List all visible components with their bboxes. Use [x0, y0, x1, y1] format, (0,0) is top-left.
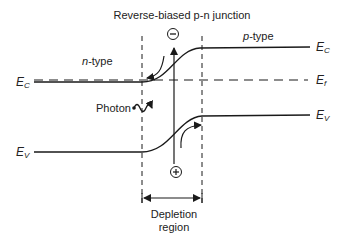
ev-right-label: EV	[316, 108, 330, 123]
ec-right-label: EC	[316, 40, 330, 55]
ef-right-label: Ef	[316, 73, 327, 88]
conduction-band-curve	[34, 47, 310, 82]
n-type-label: n-type	[82, 55, 113, 67]
band-diagram: Reverse-biased p-n junction Photon n-typ…	[0, 0, 343, 241]
valence-band-curve	[34, 115, 310, 152]
photon-label: Photon	[96, 102, 131, 114]
p-type-label: p-type	[242, 30, 274, 42]
electron-drift-arrow	[147, 56, 164, 78]
depletion-label-line2: region	[159, 221, 190, 233]
diagram-title: Reverse-biased p-n junction	[114, 9, 251, 21]
ev-left-label: EV	[16, 145, 30, 160]
ec-left-label: EC	[16, 75, 30, 90]
hole-drift-arrow	[181, 125, 201, 148]
depletion-label-line1: Depletion	[151, 208, 197, 220]
hole-icon	[171, 167, 182, 178]
electron-icon	[168, 29, 179, 40]
